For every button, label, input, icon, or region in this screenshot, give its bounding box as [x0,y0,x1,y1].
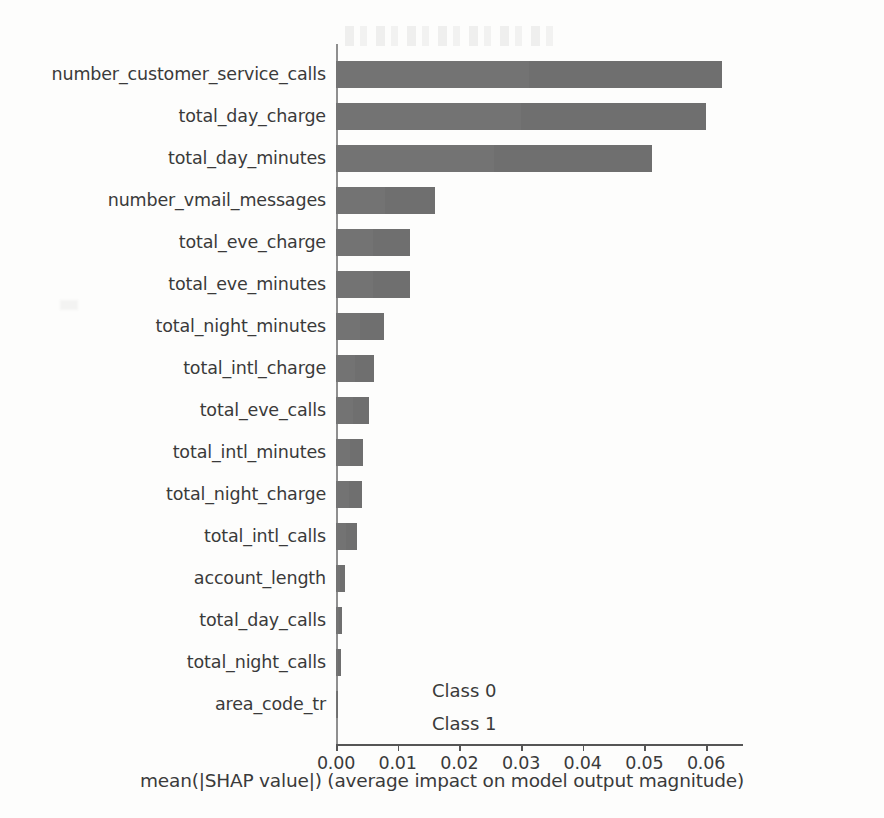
y-axis-label-total_day_charge: total_day_charge [0,103,326,130]
bar-segment-class-1 [349,481,362,508]
y-axis-label-total_eve_minutes: total_eve_minutes [0,271,326,298]
legend: Class 0 Class 1 [361,674,497,740]
bar-row[interactable]: total_night_charge [336,481,743,508]
scan-speck-artifact [60,300,78,310]
bar-segment-class-0 [336,61,529,88]
x-axis-title: mean(|SHAP value|) (average impact on mo… [0,770,884,791]
x-tick-1 [398,744,400,751]
bar-segment-class-0 [336,397,353,424]
bar-segment-class-1 [521,103,706,130]
legend-label-class-1: Class 1 [432,713,497,734]
legend-item-class-1[interactable]: Class 1 [361,707,497,740]
y-axis-label-total_intl_calls: total_intl_calls [0,523,326,550]
legend-label-class-0: Class 0 [432,680,497,701]
bar-row[interactable]: total_eve_charge [336,229,743,256]
bar-row[interactable]: total_intl_charge [336,355,743,382]
y-axis-label-total_eve_charge: total_eve_charge [0,229,326,256]
bar-segment-class-0 [336,481,349,508]
y-axis-label-number_vmail_messages: number_vmail_messages [0,187,326,214]
y-axis-label-total_night_charge: total_night_charge [0,481,326,508]
legend-swatch-class-1 [361,716,413,732]
bar-segment-class-0 [336,355,355,382]
x-tick-0 [336,744,338,751]
bar-segment-class-1 [338,649,340,676]
y-axis-label-total_night_minutes: total_night_minutes [0,313,326,340]
bar-segment-class-0 [336,103,521,130]
y-axis-label-total_day_minutes: total_day_minutes [0,145,326,172]
bar-segment-class-1 [373,271,410,298]
y-axis-label-total_intl_charge: total_intl_charge [0,355,326,382]
scan-bleedthrough-artifact [345,26,560,46]
bar-row[interactable]: total_eve_minutes [336,271,743,298]
y-axis-label-total_intl_minutes: total_intl_minutes [0,439,326,466]
bar-segment-class-0 [336,145,494,172]
legend-swatch-class-0 [361,683,413,699]
bar-row[interactable]: total_day_charge [336,103,743,130]
bar-segment-class-1 [353,397,370,424]
y-axis-label-account_length: account_length [0,565,326,592]
bar-segment-class-1 [360,313,384,340]
x-tick-3 [521,744,523,751]
bar-segment-class-1 [340,565,344,592]
bar-segment-class-0 [336,271,373,298]
bar-segment-class-0 [336,187,385,214]
x-tick-5 [644,744,646,751]
y-axis-label-number_customer_service_calls: number_customer_service_calls [0,61,326,88]
y-axis-label-area_code_tr: area_code_tr [0,691,326,718]
bar-segment-class-0 [336,229,373,256]
legend-item-class-0[interactable]: Class 0 [361,674,497,707]
bar-segment-class-1 [529,61,722,88]
bar-row[interactable]: total_night_minutes [336,313,743,340]
bar-segment-class-0 [336,313,360,340]
bar-row[interactable]: total_day_minutes [336,145,743,172]
bar-segment-class-1 [355,355,374,382]
bar-segment-class-1 [373,229,410,256]
bar-row[interactable]: total_eve_calls [336,397,743,424]
x-tick-4 [583,744,585,751]
shap-summary-bar-chart: 0.000.010.020.030.040.050.06 number_cust… [0,0,884,818]
bar-row[interactable]: number_customer_service_calls [336,61,743,88]
bar-row[interactable]: total_day_calls [336,607,743,634]
y-axis-label-total_eve_calls: total_eve_calls [0,397,326,424]
bar-segment-class-1 [337,691,338,718]
bar-segment-class-1 [339,607,342,634]
bar-row[interactable]: account_length [336,565,743,592]
y-axis-label-total_day_calls: total_day_calls [0,607,326,634]
bar-segment-class-1 [385,187,434,214]
bar-segment-class-1 [494,145,652,172]
bar-segment-class-1 [346,523,356,550]
bar-row[interactable]: total_intl_minutes [336,439,743,466]
x-tick-2 [459,744,461,751]
bar-row[interactable]: total_intl_calls [336,523,743,550]
bar-segment-class-0 [336,439,350,466]
plot-area: 0.000.010.020.030.040.050.06 number_cust… [336,44,743,744]
bar-row[interactable]: total_night_calls [336,649,743,676]
bar-segment-class-1 [350,439,364,466]
bar-segment-class-0 [336,523,346,550]
y-axis-label-total_night_calls: total_night_calls [0,649,326,676]
x-tick-6 [706,744,708,751]
bar-row[interactable]: number_vmail_messages [336,187,743,214]
